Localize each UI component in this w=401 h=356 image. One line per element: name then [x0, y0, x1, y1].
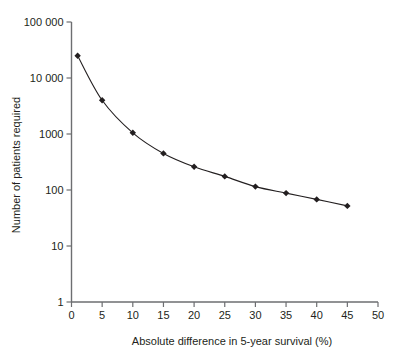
x-axis-title: Absolute difference in 5-year survival (…: [132, 335, 332, 347]
y-axis-title: Number of patients required: [10, 97, 22, 233]
y-axis-ticks: [67, 22, 72, 302]
data-point: [222, 173, 228, 179]
data-point: [314, 196, 320, 202]
series-markers: [74, 53, 350, 210]
y-axis-tick-labels: 110100100010 000100 000: [24, 16, 64, 308]
series-line: [78, 56, 348, 206]
data-point: [160, 150, 166, 156]
x-tick-label-30: 30: [249, 309, 261, 321]
x-tick-label-35: 35: [280, 309, 292, 321]
data-point: [191, 164, 197, 170]
y-tick-label-1: 1: [57, 296, 63, 308]
x-tick-label-20: 20: [188, 309, 200, 321]
x-tick-label-45: 45: [341, 309, 353, 321]
x-tick-label-40: 40: [311, 309, 323, 321]
chart-figure: 110100100010 000100 000 0510152025303540…: [0, 0, 401, 356]
sample-size-vs-survival-difference-chart: 110100100010 000100 000 0510152025303540…: [0, 0, 401, 356]
y-tick-label-100: 100: [45, 184, 63, 196]
y-tick-label-10000: 10 000: [30, 72, 64, 84]
data-point: [74, 53, 80, 59]
y-tick-label-10: 10: [51, 240, 63, 252]
x-tick-label-15: 15: [157, 309, 169, 321]
data-point: [344, 203, 350, 209]
data-point: [252, 183, 258, 189]
x-tick-label-0: 0: [68, 309, 74, 321]
x-axis-ticks: [72, 302, 379, 307]
y-axis: 110100100010 000100 000: [24, 16, 72, 308]
x-axis: 05101520253035404550: [68, 302, 384, 321]
x-tick-label-25: 25: [219, 309, 231, 321]
y-tick-label-100000: 100 000: [24, 16, 64, 28]
x-tick-label-10: 10: [127, 309, 139, 321]
x-tick-label-50: 50: [372, 309, 384, 321]
y-tick-label-1000: 1000: [39, 128, 63, 140]
data-series: [74, 53, 350, 210]
x-tick-label-5: 5: [99, 309, 105, 321]
data-point: [283, 190, 289, 196]
x-axis-tick-labels: 05101520253035404550: [68, 309, 384, 321]
